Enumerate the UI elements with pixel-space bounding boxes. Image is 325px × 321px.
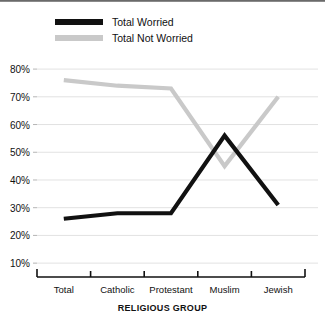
y-tick-label: 30% xyxy=(0,202,30,213)
y-tick-label: 50% xyxy=(0,147,30,158)
y-tick-label: 10% xyxy=(0,258,30,269)
x-axis-title: RELIGIOUS GROUP xyxy=(0,303,325,313)
y-tick-marks xyxy=(33,69,37,263)
y-tick-label: 20% xyxy=(0,230,30,241)
y-tick-label: 80% xyxy=(0,64,30,75)
y-tick-label: 40% xyxy=(0,174,30,185)
line-chart: 10%20%30%40%50%60%70%80% TotalCatholicPr… xyxy=(0,0,325,321)
chart-canvas xyxy=(0,0,325,321)
x-tick-label: Protestant xyxy=(149,284,192,295)
x-tick-marks xyxy=(37,269,305,277)
x-tick-label: Total xyxy=(54,284,74,295)
y-tick-label: 60% xyxy=(0,119,30,130)
x-tick-label: Jewish xyxy=(264,284,293,295)
y-tick-label: 70% xyxy=(0,91,30,102)
x-tick-label: Catholic xyxy=(100,284,134,295)
data-series xyxy=(64,80,278,219)
x-tick-label: Muslim xyxy=(210,284,240,295)
